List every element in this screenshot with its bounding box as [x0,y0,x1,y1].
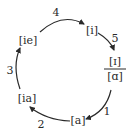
edge-label-3: 3 [7,65,14,76]
edge-label-5: 5 [112,33,119,44]
fraction-denominator: [ɑ] [104,71,126,83]
edge-label-1: 1 [104,106,111,117]
node-a: [a] [70,115,85,126]
node-fraction: [ɪ] [ɑ] [104,56,126,83]
arrow-4 [40,20,84,33]
node-ie: [ie] [19,35,38,46]
edge-label-4: 4 [53,7,60,18]
node-ia: [ia] [18,93,37,104]
fraction-numerator: [ɪ] [104,56,126,68]
arrow-3 [16,48,20,89]
arrow-2 [30,107,70,121]
node-i: [i] [86,25,98,36]
edge-label-2: 2 [38,119,45,130]
